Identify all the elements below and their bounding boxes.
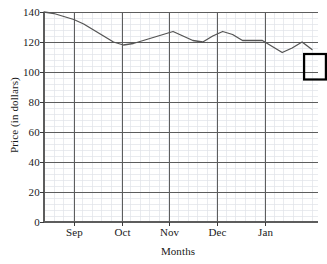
x-tick-label-jan: Jan [243, 226, 289, 238]
x-tick-label-oct: Oct [100, 226, 146, 238]
x-tick-label-nov: Nov [147, 226, 193, 238]
line-chart-figure: 020406080100120140 SepOctNovDecJan Price… [0, 0, 327, 264]
x-tick-label-sep: Sep [52, 226, 98, 238]
x-axis-title: Months [44, 245, 312, 258]
x-tick-label-dec: Dec [195, 226, 241, 238]
y-axis-title: Price (in dollars) [7, 15, 21, 215]
x-axis-tick-labels: SepOctNovDecJan [0, 0, 327, 264]
